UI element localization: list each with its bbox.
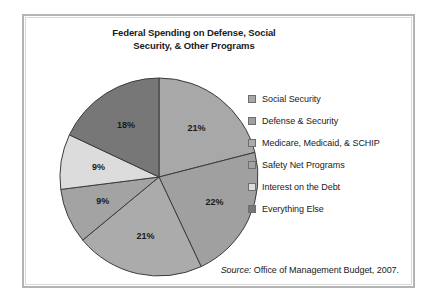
legend-color-swatch: [248, 139, 256, 147]
pie-slice-value-label: 9%: [92, 162, 105, 172]
legend-color-swatch: [248, 183, 256, 191]
pie-slice-value-label: 9%: [96, 196, 109, 206]
pie-slice-value-label: 21%: [188, 123, 206, 133]
legend-item-label: Social Security: [262, 94, 321, 104]
pie-chart-svg: 21%22%21%9%9%18%: [24, 16, 264, 290]
legend-item[interactable]: Medicare, Medicaid, & SCHIP: [248, 132, 418, 154]
legend-color-swatch: [248, 95, 256, 103]
legend-item-label: Everything Else: [262, 204, 324, 214]
legend-item-label: Medicare, Medicaid, & SCHIP: [262, 138, 380, 148]
legend-item[interactable]: Everything Else: [248, 198, 418, 220]
chart-legend: Social SecurityDefense & SecurityMedicar…: [248, 88, 418, 220]
source-attribution: Source: Office of Management Budget, 200…: [54, 265, 399, 275]
pie-slice-value-label: 21%: [137, 231, 155, 241]
legend-item[interactable]: Defense & Security: [248, 110, 418, 132]
chart-figure: Federal Spending on Defense, Social Secu…: [22, 14, 415, 288]
pie-slice-value-label: 22%: [205, 197, 223, 207]
legend-color-swatch: [248, 205, 256, 213]
pie-slice-value-label: 18%: [117, 120, 135, 130]
legend-item[interactable]: Interest on the Debt: [248, 176, 418, 198]
legend-color-swatch: [248, 117, 256, 125]
legend-item-label: Interest on the Debt: [262, 182, 340, 192]
legend-item-label: Safety Net Programs: [262, 160, 345, 170]
legend-color-swatch: [248, 161, 256, 169]
legend-item[interactable]: Social Security: [248, 88, 418, 110]
source-text: Office of Management Budget, 2007.: [251, 265, 399, 275]
legend-item[interactable]: Safety Net Programs: [248, 154, 418, 176]
pie-slice-group: [60, 78, 258, 276]
source-prefix: Source:: [221, 265, 252, 275]
legend-item-label: Defense & Security: [262, 116, 338, 126]
pie-chart: 21%22%21%9%9%18%: [24, 16, 264, 290]
